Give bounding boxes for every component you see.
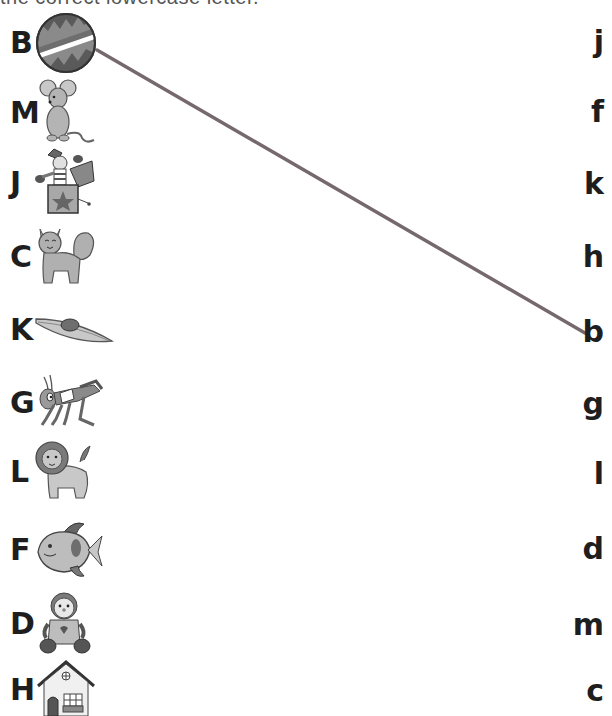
cat-icon[interactable]	[34, 225, 98, 289]
lion-icon[interactable]	[34, 440, 98, 504]
lowercase-letter-k[interactable]: k	[584, 169, 604, 199]
lowercase-letter-h[interactable]: h	[583, 242, 604, 272]
lowercase-letter-f[interactable]: f	[591, 97, 604, 127]
ball-icon[interactable]	[34, 11, 98, 75]
uppercase-letter-c[interactable]: C	[10, 242, 32, 272]
uppercase-letter-j[interactable]: J	[10, 168, 21, 198]
grasshopper-icon[interactable]	[34, 375, 104, 431]
house-icon[interactable]	[34, 660, 98, 716]
lowercase-letter-j[interactable]: j	[594, 27, 604, 57]
uppercase-letter-l[interactable]: L	[10, 457, 29, 487]
instruction-text: the correct lowercase letter.	[0, 0, 259, 9]
mouse-icon[interactable]	[34, 78, 98, 148]
lowercase-letter-c[interactable]: c	[586, 676, 604, 706]
uppercase-letter-f[interactable]: F	[10, 535, 31, 565]
lowercase-letter-b[interactable]: b	[583, 317, 604, 347]
uppercase-letter-k[interactable]: K	[10, 315, 33, 345]
lowercase-letter-l[interactable]: l	[594, 459, 604, 489]
uppercase-letter-h[interactable]: H	[10, 675, 35, 705]
lowercase-letter-m[interactable]: m	[573, 610, 604, 640]
lowercase-letter-d[interactable]: d	[583, 534, 604, 564]
uppercase-letter-b[interactable]: B	[10, 28, 33, 58]
lowercase-letter-g[interactable]: g	[583, 389, 604, 419]
uppercase-letter-d[interactable]: D	[10, 609, 35, 639]
doll-icon[interactable]	[34, 592, 98, 656]
kayak-icon[interactable]	[34, 313, 114, 347]
uppercase-letter-g[interactable]: G	[10, 388, 35, 418]
jack-in-the-box-icon[interactable]	[34, 147, 98, 219]
fish-icon[interactable]	[34, 520, 104, 580]
